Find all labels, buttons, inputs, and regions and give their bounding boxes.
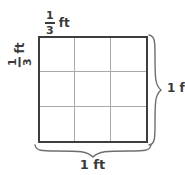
total-width-measure: 1 ft xyxy=(80,157,105,172)
cell-height-label: 1 3 ft xyxy=(4,36,34,74)
grid-cell xyxy=(111,107,146,141)
horizontal-curly-brace xyxy=(33,143,153,158)
total-height-measure: 1 ft xyxy=(167,81,185,95)
vertical-curly-brace xyxy=(147,33,163,147)
cell-height-measure: 1 3 ft xyxy=(6,43,32,68)
fraction-one-third: 1 3 xyxy=(45,10,55,36)
grid-cell xyxy=(75,72,110,106)
fraction-numerator: 1 xyxy=(45,10,55,22)
fraction-numerator: 1 xyxy=(6,58,18,68)
total-width-label: 1 ft xyxy=(0,157,185,172)
grid-square xyxy=(38,36,148,143)
grid-cell xyxy=(111,72,146,106)
grid-cell xyxy=(40,38,75,72)
unit-feet: ft xyxy=(12,43,26,54)
grid-cell xyxy=(111,38,146,72)
fraction-denominator: 3 xyxy=(20,58,32,68)
cell-width-measure: 1 3 ft xyxy=(45,10,70,36)
cell-width-label: 1 3 ft xyxy=(45,4,70,36)
fraction-one-third: 1 3 xyxy=(6,58,32,68)
area-model-figure: 1 3 ft 1 3 ft xyxy=(0,0,185,175)
total-height-value: 1 ft xyxy=(167,81,185,95)
total-width-value: 1 ft xyxy=(80,157,105,172)
grid-cell xyxy=(40,72,75,106)
unit-feet: ft xyxy=(59,16,70,30)
total-height-label: 1 ft xyxy=(167,81,185,95)
grid-cell xyxy=(75,107,110,141)
grid-cell xyxy=(75,38,110,72)
fraction-denominator: 3 xyxy=(45,24,55,36)
grid-cell xyxy=(40,107,75,141)
